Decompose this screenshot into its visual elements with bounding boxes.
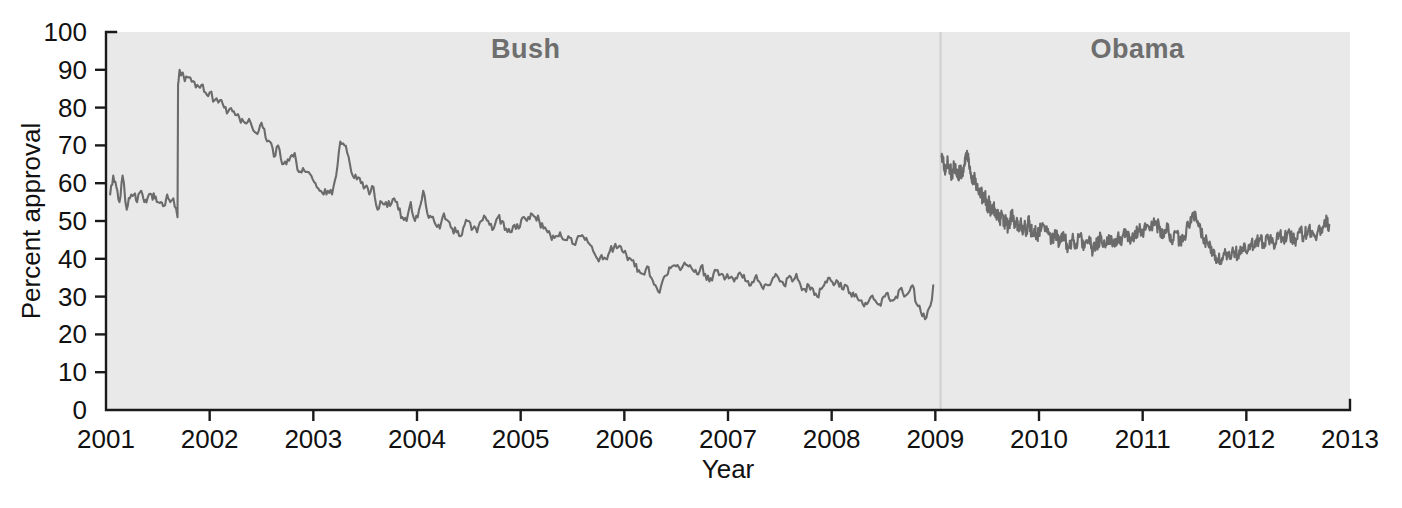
y-tick-label: 90	[58, 55, 87, 85]
y-tick-label: 20	[58, 319, 87, 349]
x-tick-label: 2005	[492, 424, 550, 454]
y-tick-label: 40	[58, 244, 87, 274]
x-axis-tick-group: 2001200220032004200520062007200820092010…	[77, 410, 1379, 454]
x-tick-label: 2009	[906, 424, 964, 454]
x-tick-label: 2013	[1321, 424, 1379, 454]
x-tick-label: 2011	[1115, 424, 1171, 454]
y-tick-label: 10	[58, 357, 87, 387]
x-axis-title: Year	[702, 454, 755, 484]
x-tick-label: 2007	[699, 424, 757, 454]
x-tick-label: 2012	[1217, 424, 1275, 454]
y-tick-label: 60	[58, 168, 87, 198]
plot-area-background	[106, 32, 1350, 410]
y-tick-label: 30	[58, 282, 87, 312]
y-tick-label: 80	[58, 93, 87, 123]
y-tick-label: 100	[44, 17, 87, 47]
x-tick-label: 2003	[284, 424, 342, 454]
x-tick-label: 2010	[1010, 424, 1068, 454]
x-tick-label: 2004	[388, 424, 446, 454]
x-tick-label: 2006	[595, 424, 653, 454]
series-annotation-bush: Bush	[491, 34, 561, 64]
y-tick-label: 70	[58, 130, 87, 160]
chart-canvas: 2001200220032004200520062007200820092010…	[0, 0, 1402, 508]
series-annotation-obama: Obama	[1090, 34, 1185, 64]
y-axis-title: Percent approval	[16, 123, 46, 320]
x-tick-label: 2002	[181, 424, 239, 454]
x-tick-label: 2001	[77, 424, 135, 454]
approval-rating-chart-figure: 2001200220032004200520062007200820092010…	[0, 0, 1402, 508]
y-axis-tick-group: 0102030405060708090100	[44, 17, 106, 425]
x-tick-label: 2008	[803, 424, 861, 454]
y-tick-label: 50	[58, 206, 87, 236]
y-tick-label: 0	[73, 395, 87, 425]
plot-background-group	[106, 32, 1350, 410]
